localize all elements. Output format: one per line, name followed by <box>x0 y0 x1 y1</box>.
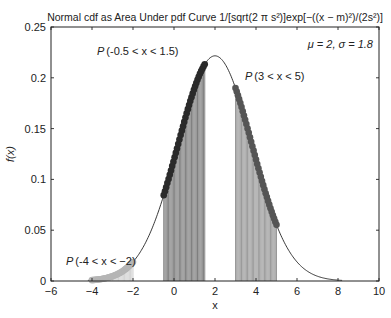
svg-text:P(3 < x < 5): P(3 < x < 5) <box>245 70 304 82</box>
y-tick-label: 0.05 <box>25 224 46 236</box>
annotation-middle: P(-0.5 < x < 1.5) <box>97 45 179 57</box>
shaded-regions <box>92 64 277 281</box>
x-tick-label: 0 <box>171 285 177 297</box>
x-tick-label: 8 <box>335 285 341 297</box>
y-tick-label: 0.1 <box>31 173 46 185</box>
y-tick-label: 0.2 <box>31 72 46 84</box>
normal-pdf-chart: −6−4−2024681000.050.10.150.20.25 Normal … <box>0 0 391 318</box>
x-tick-label: 2 <box>212 285 218 297</box>
x-tick-label: 4 <box>253 285 259 297</box>
x-axis-label: x <box>212 299 218 311</box>
y-axis-label: f(x) <box>4 146 16 162</box>
pdf-curve <box>88 56 342 281</box>
params-annotation: μ = 2, σ = 1.8 <box>307 38 374 50</box>
svg-text:P(-0.5 < x < 1.5): P(-0.5 < x < 1.5) <box>97 45 179 57</box>
plot-frame <box>51 27 379 281</box>
annotation-right: P(3 < x < 5) <box>245 70 304 82</box>
x-tick-label: −6 <box>45 285 58 297</box>
x-tick-label: 10 <box>373 285 385 297</box>
x-tick-label: −2 <box>127 285 140 297</box>
y-tick-label: 0.15 <box>25 123 46 135</box>
chart-title: Normal cdf as Area Under pdf Curve 1/[sq… <box>47 11 383 23</box>
y-tick-label: 0.25 <box>25 21 46 33</box>
svg-text:P(-4 < x < −2): P(-4 < x < −2) <box>66 255 136 267</box>
annotation-left: P(-4 < x < −2) <box>66 255 136 267</box>
x-tick-label: −4 <box>86 285 99 297</box>
x-tick-label: 6 <box>294 285 300 297</box>
y-tick-label: 0 <box>40 275 46 287</box>
